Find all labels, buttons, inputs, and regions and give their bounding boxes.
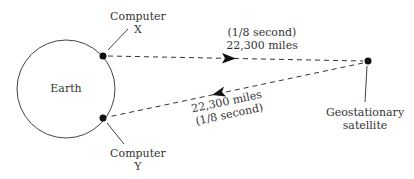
uplink-label: (1/8 second) 22,300 miles [222,26,302,52]
satellite-label-line1: Geostationary [325,106,405,119]
uplink-arrowhead [222,53,236,64]
satellite-leader [365,66,367,102]
computer-x-label: Computer X [108,10,168,36]
uplink-distance: 22,300 miles [222,39,302,52]
computer-y-label-line2: Y [108,160,168,173]
satellite-dot [365,58,372,65]
computer-x-dot [100,53,107,60]
satellite-label: Geostationary satellite [325,106,405,132]
computer-y-dot [100,115,107,122]
computer-y-leader [107,123,124,144]
computer-x-label-line1: Computer [108,10,168,23]
satellite-link-diagram: Earth Computer X Computer Y Geostationar… [0,0,414,179]
satellite-label-line2: satellite [325,119,405,132]
computer-y-label: Computer Y [108,147,168,173]
computer-y-label-line1: Computer [108,147,168,160]
uplink-time: (1/8 second) [222,26,302,39]
earth-label: Earth [40,82,92,95]
computer-x-label-line2: X [108,23,168,36]
